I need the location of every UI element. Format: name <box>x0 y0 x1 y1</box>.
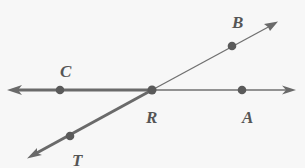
label-b: B <box>232 14 243 31</box>
arrowhead-b-icon <box>264 22 278 32</box>
ray-rb <box>152 25 272 90</box>
point-b <box>228 42 237 51</box>
label-c: C <box>60 63 71 80</box>
label-t: T <box>72 152 82 168</box>
diagram-canvas <box>0 0 305 168</box>
point-t <box>66 132 75 141</box>
point-c <box>56 86 65 95</box>
arrowhead-t-icon <box>27 148 42 159</box>
label-a: A <box>242 109 253 126</box>
ray-rt <box>33 90 152 155</box>
point-a <box>238 86 247 95</box>
geometry-diagram: C R A B T <box>0 0 305 168</box>
point-r <box>148 86 157 95</box>
label-r: R <box>146 109 157 126</box>
